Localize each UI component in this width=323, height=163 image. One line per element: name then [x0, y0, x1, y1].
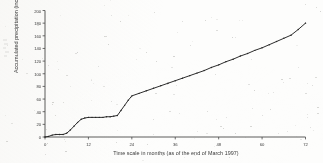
y-tick-label: 100	[20, 71, 41, 76]
y-tick-label: 40	[20, 109, 41, 114]
data-point-marker	[218, 64, 219, 65]
data-point-marker	[240, 55, 241, 56]
scan-speck	[206, 133, 208, 134]
data-point-marker	[59, 134, 60, 135]
scan-speck	[91, 80, 92, 81]
scan-speck	[153, 119, 154, 120]
scan-speck	[232, 37, 233, 38]
scan-speck	[229, 157, 230, 158]
scan-speck	[111, 101, 112, 102]
y-tick-label: 200	[20, 8, 41, 13]
scan-speck	[77, 52, 78, 53]
scan-speck	[317, 113, 319, 114]
scan-speck	[103, 86, 105, 87]
scan-speck	[287, 131, 288, 132]
scan-edge-artifact	[2, 38, 14, 62]
data-point-marker	[88, 117, 89, 118]
data-point-marker	[73, 126, 74, 127]
scan-speck	[301, 24, 302, 25]
data-point-marker	[254, 50, 255, 51]
scan-speck	[57, 61, 58, 62]
data-point-marker	[146, 90, 147, 91]
scan-speck	[64, 139, 65, 140]
scan-speck	[173, 94, 175, 95]
precipitation-markers	[44, 22, 306, 137]
scan-speck	[42, 58, 43, 59]
data-point-marker	[113, 115, 114, 116]
data-point-marker	[77, 122, 78, 123]
scan-speck	[169, 111, 171, 112]
data-point-marker	[196, 72, 197, 73]
scan-speck	[40, 125, 41, 126]
scan-speck	[252, 108, 253, 109]
scan-speck	[192, 41, 193, 42]
x-tick-label: 48	[216, 142, 220, 147]
data-point-marker	[84, 117, 85, 118]
scan-speck	[110, 0, 111, 1]
scan-speck	[184, 157, 185, 158]
data-point-marker	[189, 75, 190, 76]
scan-speck	[116, 152, 117, 153]
data-point-marker	[48, 136, 49, 137]
data-point-marker	[298, 29, 299, 30]
scan-speck	[48, 65, 49, 66]
scan-speck	[45, 154, 46, 155]
scan-speck	[296, 45, 298, 46]
scan-speck	[194, 138, 195, 139]
scan-speck	[307, 83, 308, 84]
scan-speck	[98, 66, 99, 67]
scan-speck	[313, 130, 314, 131]
scan-speck	[278, 133, 279, 134]
scan-speck	[281, 79, 283, 80]
data-series-group	[44, 22, 306, 137]
scan-speck	[317, 107, 319, 108]
scan-speck	[5, 26, 6, 27]
data-point-marker	[95, 117, 96, 118]
scan-speck	[320, 11, 321, 12]
data-point-marker	[70, 129, 71, 130]
data-point-marker	[62, 134, 63, 135]
scan-speck	[52, 104, 53, 105]
scan-speck	[207, 111, 208, 112]
scan-speck	[131, 97, 132, 98]
data-point-marker	[261, 47, 262, 48]
data-point-marker	[120, 110, 121, 111]
scan-speck	[273, 92, 274, 93]
scan-speck	[312, 85, 313, 86]
scan-speck	[60, 15, 61, 16]
scan-speck	[289, 78, 291, 79]
scan-speck	[93, 83, 94, 84]
scan-speck	[142, 160, 144, 161]
data-point-marker	[290, 34, 291, 35]
x-tick-label: 72	[303, 142, 307, 147]
x-tick-label: 36	[173, 142, 177, 147]
data-point-marker	[124, 105, 125, 106]
scan-speck	[139, 48, 141, 49]
data-point-marker	[283, 38, 284, 39]
scan-speck	[216, 30, 218, 31]
scan-speck	[156, 61, 157, 62]
scan-speck	[296, 136, 297, 137]
scan-speck	[270, 109, 271, 110]
y-tick-label: 80	[20, 84, 41, 89]
scan-speck	[91, 100, 92, 101]
scan-speck	[116, 104, 118, 105]
data-point-marker	[276, 41, 277, 42]
data-point-marker	[182, 77, 183, 78]
data-point-marker	[160, 85, 161, 86]
data-point-marker	[117, 115, 118, 116]
y-tick-label: 20	[20, 122, 41, 127]
scan-speck	[128, 15, 129, 16]
data-point-marker	[128, 100, 129, 101]
chart-canvas	[0, 0, 323, 163]
scan-speck	[162, 155, 163, 156]
scan-speck	[66, 75, 68, 76]
axes-group	[43, 11, 306, 140]
data-point-marker	[99, 117, 100, 118]
scan-speck	[179, 113, 180, 114]
scan-speck	[177, 32, 178, 33]
scan-speck	[75, 53, 77, 54]
data-point-marker	[102, 117, 103, 118]
scan-speck	[46, 129, 47, 130]
data-point-marker	[80, 119, 81, 120]
